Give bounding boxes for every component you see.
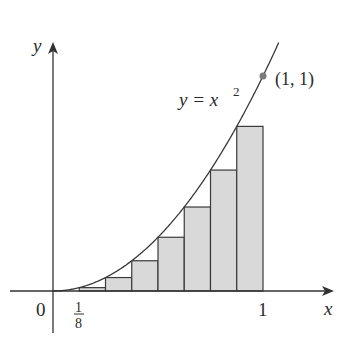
rectangle [237, 126, 263, 291]
origin-label: 0 [36, 299, 46, 320]
rectangle [184, 207, 210, 291]
rectangle [106, 278, 132, 291]
rectangles [79, 126, 263, 291]
curve-label-exponent: 2 [233, 84, 240, 99]
rectangle [158, 237, 184, 291]
tick-label-frac-den: 8 [75, 316, 82, 331]
rectangle [132, 261, 158, 291]
tick-label-frac-num: 1 [75, 300, 82, 315]
x-axis-label: x [323, 298, 333, 319]
point-1-1 [260, 73, 267, 80]
point-label: (1, 1) [275, 69, 314, 90]
rectangle [211, 170, 237, 291]
tick-label-1: 1 [258, 299, 268, 320]
y-axis-label: y [31, 35, 42, 56]
riemann-sum-chart: y x 0 1 1 8 (1, 1) y = x 2 [0, 0, 346, 349]
curve-label: y = x [177, 89, 219, 110]
